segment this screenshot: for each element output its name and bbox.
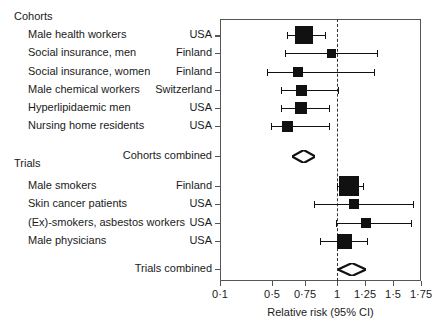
row-edge-tick: [215, 72, 220, 73]
point-estimate-square: [296, 85, 307, 96]
x-tick: [272, 281, 273, 286]
confidence-interval-cap: [281, 105, 282, 112]
summary-label-cohorts: Cohorts combined: [60, 149, 212, 161]
summary-diamond: [338, 263, 366, 276]
confidence-interval-cap: [267, 69, 268, 76]
point-estimate-square: [295, 26, 313, 44]
study-country: USA: [120, 28, 212, 40]
confidence-interval-cap: [320, 238, 321, 245]
confidence-interval-cap: [374, 69, 375, 76]
confidence-interval-line: [281, 90, 338, 91]
x-tick-label: 0·1: [212, 288, 228, 300]
point-estimate-square: [337, 234, 352, 249]
point-estimate-square: [293, 67, 303, 77]
confidence-interval-cap: [314, 201, 315, 208]
confidence-interval-line: [314, 204, 413, 205]
point-estimate-square: [327, 49, 336, 58]
confidence-interval-cap: [281, 87, 282, 94]
study-label: Male health workers: [28, 28, 126, 40]
x-tick-label: 1·75: [410, 288, 432, 300]
study-label: Male physicians: [28, 234, 106, 246]
x-axis-title: Relative risk (95% CI): [220, 306, 421, 318]
confidence-interval-cap: [285, 50, 286, 57]
x-tick: [305, 281, 306, 286]
study-label: Hyperlipidaemic men: [28, 101, 131, 113]
summary-label-trials: Trials combined: [60, 262, 212, 274]
confidence-interval-cap: [329, 123, 330, 130]
row-edge-tick: [215, 223, 220, 224]
x-tick: [337, 281, 338, 286]
study-country: USA: [120, 101, 212, 113]
confidence-interval-cap: [329, 105, 330, 112]
summary-diamond: [292, 150, 315, 163]
confidence-interval-line: [267, 72, 374, 73]
confidence-interval-cap: [411, 220, 412, 227]
study-country: Finland: [120, 179, 212, 191]
study-country: USA: [120, 234, 212, 246]
x-tick-label: 1·5: [385, 288, 401, 300]
row-edge-tick: [215, 186, 220, 187]
x-tick: [365, 281, 366, 286]
study-label: Male smokers: [28, 179, 96, 191]
study-label: Skin cancer patients: [28, 197, 127, 209]
confidence-interval-cap: [336, 220, 337, 227]
row-edge-tick: [215, 90, 220, 91]
confidence-interval-cap: [413, 201, 414, 208]
x-tick: [393, 281, 394, 286]
x-tick: [220, 281, 221, 286]
point-estimate-square: [295, 102, 307, 114]
confidence-interval-cap: [338, 87, 339, 94]
row-edge-tick: [215, 204, 220, 205]
row-edge-tick: [215, 108, 220, 109]
confidence-interval-cap: [325, 32, 326, 39]
row-edge-tick: [215, 35, 220, 36]
point-estimate-square: [282, 121, 293, 132]
x-tick-label: 0·75: [294, 288, 316, 300]
x-tick-label: 0·5: [264, 288, 280, 300]
frame-edge-tick: [215, 36, 220, 37]
study-country: Finland: [120, 46, 212, 58]
study-country: Finland: [120, 65, 212, 77]
confidence-interval-cap: [367, 238, 368, 245]
point-estimate-square: [361, 218, 371, 228]
group-heading-cohorts: Cohorts: [14, 10, 53, 22]
confidence-interval-cap: [287, 32, 288, 39]
row-edge-tick: [215, 241, 220, 242]
study-country: USA: [120, 197, 212, 209]
point-estimate-square: [349, 199, 359, 209]
row-edge-tick: [215, 126, 220, 127]
confidence-interval-cap: [337, 183, 338, 190]
forest-plot: CohortsMale health workersUSASocial insu…: [0, 0, 447, 334]
confidence-interval-line: [336, 223, 411, 224]
study-country: Switzerland: [120, 83, 212, 95]
x-tick-label: 1: [334, 288, 340, 300]
row-edge-tick: [215, 269, 220, 270]
group-heading-trials: Trials: [14, 157, 40, 169]
confidence-interval-line: [271, 126, 330, 127]
x-tick-label: 1·25: [354, 288, 376, 300]
confidence-interval-cap: [377, 50, 378, 57]
confidence-interval-cap: [271, 123, 272, 130]
x-tick: [421, 281, 422, 286]
row-edge-tick: [215, 156, 220, 157]
point-estimate-square: [339, 176, 359, 196]
study-country: USA: [120, 216, 212, 228]
confidence-interval-cap: [363, 183, 364, 190]
study-country: USA: [120, 119, 212, 131]
row-edge-tick: [215, 53, 220, 54]
